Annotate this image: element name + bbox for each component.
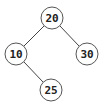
- edge-20-10: [24, 26, 44, 46]
- node-20: 20: [41, 7, 63, 29]
- node-25: 25: [40, 79, 62, 101]
- node-label: 10: [9, 48, 22, 61]
- node-10: 10: [5, 43, 27, 65]
- edge-10-25: [24, 62, 43, 82]
- tree-diagram: 20 10 30 25: [0, 0, 104, 107]
- node-label: 20: [45, 12, 58, 25]
- edges: [24, 26, 79, 82]
- edge-20-30: [60, 26, 79, 46]
- node-30: 30: [76, 43, 98, 65]
- node-label: 30: [80, 48, 93, 61]
- node-label: 25: [44, 84, 57, 97]
